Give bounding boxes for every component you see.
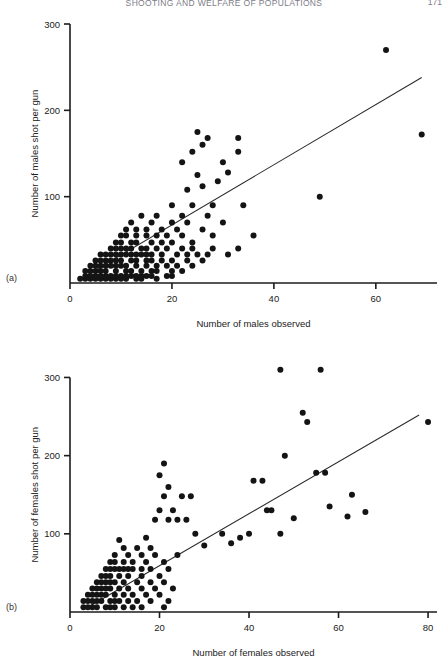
data-point xyxy=(188,493,194,499)
data-point xyxy=(183,517,189,523)
data-point xyxy=(282,453,288,459)
x-axis-tick-label: 20 xyxy=(154,622,165,633)
x-axis-tick-label: 60 xyxy=(333,622,344,633)
y-axis-tick-label: 100 xyxy=(44,528,60,539)
x-axis-tick-label: 80 xyxy=(423,622,434,633)
data-point xyxy=(179,268,185,274)
data-point xyxy=(164,245,170,251)
data-point xyxy=(149,239,155,245)
data-point xyxy=(225,169,231,175)
y-axis-tick-label: 300 xyxy=(44,372,60,383)
data-point xyxy=(139,573,145,579)
data-point xyxy=(159,258,165,264)
data-point xyxy=(200,183,206,189)
data-point xyxy=(149,220,155,226)
data-point xyxy=(165,598,171,604)
data-point xyxy=(189,245,195,251)
data-point xyxy=(317,194,323,200)
data-point xyxy=(154,263,160,269)
data-point xyxy=(164,263,170,269)
data-point xyxy=(235,135,241,141)
data-point xyxy=(205,135,211,141)
data-point xyxy=(116,537,122,543)
data-point xyxy=(118,239,124,245)
y-axis-tick-label: 100 xyxy=(44,191,60,202)
data-point xyxy=(125,552,131,558)
y-axis-title: Number of females shot per gun xyxy=(29,427,40,563)
data-point xyxy=(143,592,149,598)
x-axis-tick-label: 0 xyxy=(67,293,72,304)
data-point xyxy=(220,220,226,226)
data-point xyxy=(179,493,185,499)
data-point xyxy=(300,410,306,416)
data-point xyxy=(128,268,134,274)
data-point xyxy=(194,129,200,135)
data-point xyxy=(130,592,136,598)
data-point xyxy=(154,213,160,219)
data-point xyxy=(157,472,163,478)
data-point xyxy=(205,252,211,258)
data-point xyxy=(134,579,140,585)
data-point xyxy=(159,252,165,258)
data-point xyxy=(133,233,139,239)
data-point xyxy=(148,579,154,585)
data-point xyxy=(125,598,131,604)
scatter-plot-panel-b: 100200300020406080Number of females obse… xyxy=(0,340,448,665)
data-point xyxy=(189,202,195,208)
data-point xyxy=(125,573,131,579)
data-point xyxy=(121,604,127,610)
data-point xyxy=(133,239,139,245)
data-point xyxy=(103,268,109,274)
data-point xyxy=(143,233,149,239)
data-point xyxy=(170,507,176,513)
data-point xyxy=(169,273,175,279)
data-point xyxy=(139,552,145,558)
data-point xyxy=(189,149,195,155)
data-point xyxy=(189,263,195,269)
data-point xyxy=(268,507,274,513)
data-point xyxy=(123,263,129,269)
data-point xyxy=(170,586,176,592)
data-point xyxy=(130,604,136,610)
panel-label: (a) xyxy=(6,273,17,283)
data-point xyxy=(139,586,145,592)
data-point xyxy=(152,552,158,558)
data-point xyxy=(112,552,118,558)
y-axis-title: Number of males shot per gun xyxy=(29,90,40,218)
data-point xyxy=(210,233,216,239)
data-point xyxy=(318,367,324,373)
data-point xyxy=(184,252,190,258)
data-point xyxy=(121,559,127,565)
data-point xyxy=(215,178,221,184)
data-point xyxy=(174,226,180,232)
data-point xyxy=(143,535,149,541)
data-point xyxy=(246,531,252,537)
data-point xyxy=(220,159,226,165)
data-point xyxy=(291,515,297,521)
data-point xyxy=(251,478,257,484)
data-point xyxy=(200,258,206,264)
x-axis-title: Number of males observed xyxy=(196,318,310,329)
data-point xyxy=(116,586,122,592)
data-point xyxy=(174,517,180,523)
x-axis-tick-label: 20 xyxy=(167,293,178,304)
data-point xyxy=(179,213,185,219)
data-point xyxy=(157,573,163,579)
x-axis-tick-label: 0 xyxy=(67,622,72,633)
data-point xyxy=(139,604,145,610)
data-point xyxy=(169,239,175,245)
data-point xyxy=(194,172,200,178)
scatter-panel-females: 100200300020406080Number of females obse… xyxy=(0,340,448,665)
data-point xyxy=(139,566,145,572)
data-point xyxy=(251,233,257,239)
running-head: SHOOTING AND WELFARE OF POPULATIONS 171 xyxy=(0,0,448,9)
data-point xyxy=(112,604,118,610)
scatter-plot-panel-a: 1002003000204060Number of males observed… xyxy=(0,10,448,330)
data-point xyxy=(116,573,122,579)
data-point xyxy=(362,509,368,515)
scatter-panel-males: 1002003000204060Number of males observed… xyxy=(0,10,448,330)
data-point xyxy=(174,552,180,558)
data-point xyxy=(148,598,154,604)
data-point xyxy=(184,220,190,226)
data-point xyxy=(179,159,185,165)
